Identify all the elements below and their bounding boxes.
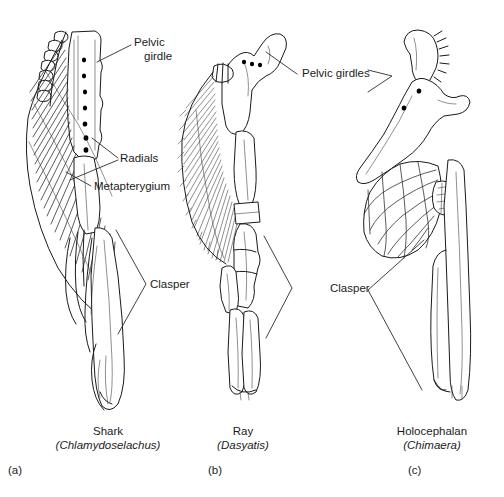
shark-illustration [26, 31, 124, 410]
ray-illustration [178, 34, 286, 400]
caption-shark: Shark (Chlamydoselachus) [38, 424, 178, 452]
figure-canvas: Pelvic girdle Radials Metapterygium Pelv… [0, 0, 504, 497]
holocephalan-anterior-process [404, 30, 438, 84]
caption-holocephalan: Holocephalan (Chimaera) [362, 424, 502, 452]
caption-ray: Ray (Dasyatis) [188, 424, 298, 452]
caption-shark-genus: (Chlamydoselachus) [38, 438, 178, 452]
label-pelvic-girdle: Pelvic girdle [134, 36, 172, 63]
caption-holocephalan-common: Holocephalan [397, 425, 467, 437]
leader-pelvic-girdle [97, 45, 131, 62]
ray-basipterygium [234, 131, 256, 206]
caption-holocephalan-genus: (Chimaera) [362, 438, 502, 452]
panel-label-b: (b) [208, 464, 222, 476]
leader-pelvic-girdles-right [368, 70, 392, 92]
label-clasper-right: Clasper [330, 282, 370, 296]
label-radials: Radials [120, 152, 158, 166]
ray-pelvic-girdle [222, 34, 286, 135]
label-pelvic-girdle-line2: girdle [134, 50, 172, 64]
label-clasper-shark: Clasper [150, 278, 190, 292]
shark-clasper [85, 228, 125, 410]
panel-label-a: (a) [8, 464, 22, 476]
shark-basal-segments [37, 31, 68, 101]
panel-label-c: (c) [408, 464, 421, 476]
shark-clasper-accessory [66, 230, 87, 324]
holocephalan-illustration [356, 30, 470, 400]
label-pelvic-girdles: Pelvic girdles [302, 67, 370, 81]
caption-ray-common: Ray [233, 425, 253, 437]
caption-ray-genus: (Dasyatis) [188, 438, 298, 452]
label-metapterygium: Metapterygium [94, 180, 170, 194]
caption-shark-common: Shark [93, 425, 123, 437]
shark-metapterygium [74, 156, 100, 234]
illustration-svg [0, 0, 504, 497]
leader-clasper-holocephalan [368, 240, 424, 390]
label-pelvic-girdle-line1: Pelvic [134, 36, 165, 48]
leader-clasper-ray [264, 236, 292, 338]
ray-clasper [220, 224, 261, 400]
